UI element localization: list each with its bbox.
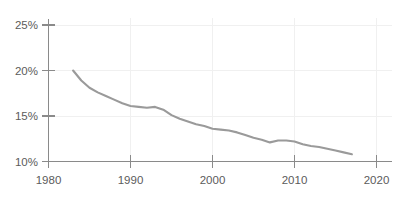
y-tick-label-25: 25%	[15, 19, 38, 31]
gridlines-vertical	[131, 18, 377, 162]
line-chart: 25% 20% 15% 10% 1980 1990 2000 2010 2020	[0, 0, 399, 197]
y-tick-label-15: 15%	[15, 110, 38, 122]
y-tick-label-20: 20%	[15, 65, 38, 77]
y-axis-tick-labels: 25% 20% 15% 10%	[15, 19, 38, 168]
x-tick-label-1990: 1990	[118, 174, 144, 186]
x-tick-label-2010: 2010	[282, 174, 308, 186]
x-tick-label-2020: 2020	[364, 174, 390, 186]
x-tick-label-2000: 2000	[200, 174, 226, 186]
chart-plot-area: 25% 20% 15% 10% 1980 1990 2000 2010 2020	[0, 0, 399, 197]
x-tick-label-1980: 1980	[36, 174, 62, 186]
gridlines-horizontal	[48, 25, 392, 116]
x-axis-tick-labels: 1980 1990 2000 2010 2020	[36, 174, 390, 186]
y-tick-label-10: 10%	[15, 156, 38, 168]
axis-lines	[48, 19, 392, 162]
